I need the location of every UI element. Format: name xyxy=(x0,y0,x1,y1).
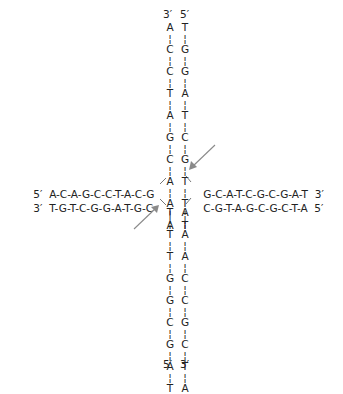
upper-right-arrow-icon xyxy=(189,145,215,170)
lower-left-arrow-icon xyxy=(134,205,159,229)
